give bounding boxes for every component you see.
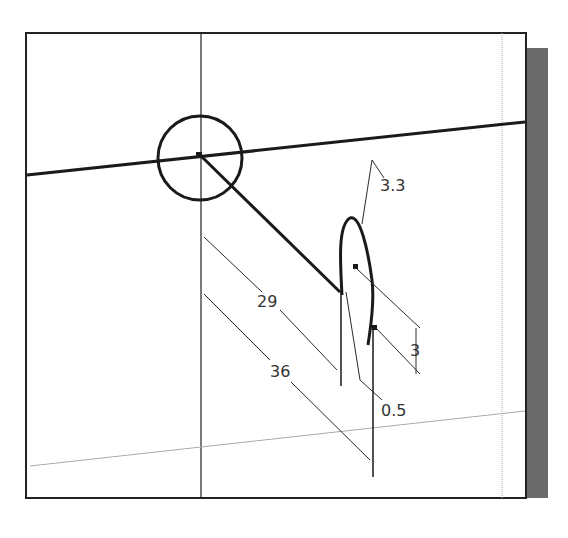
dim-label-3.3[interactable]: 3.3 [380, 176, 405, 195]
dim-label-3[interactable]: 3 [410, 341, 420, 360]
dim-label-29[interactable]: 29 [257, 292, 277, 311]
dim-label-0.5[interactable]: 0.5 [381, 401, 406, 420]
viewport-frame [26, 33, 526, 498]
dim-label-36[interactable]: 36 [270, 362, 290, 381]
sketch-viewport: 3.3 29 36 3 0.5 [0, 0, 568, 538]
